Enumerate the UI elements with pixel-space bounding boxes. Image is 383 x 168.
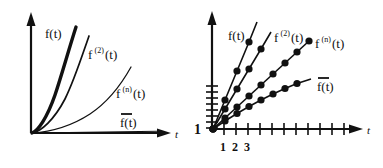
panel-discrete-curves: f(t) f (2) (t) f (n) (t) f(t) 1 1 2: [191, 0, 383, 168]
svg-text:f: f: [315, 36, 320, 51]
svg-text:f: f: [116, 86, 121, 101]
svg-text:f: f: [274, 30, 279, 45]
label-fbar-right: f(t): [317, 78, 334, 94]
discrete-plot-svg: f(t) f (2) (t) f (n) (t) f(t) 1 1 2: [191, 0, 383, 168]
label-f-left: f(t): [45, 26, 62, 41]
x-tick-label-2: 2: [232, 140, 238, 154]
svg-text:f(t): f(t): [317, 79, 334, 94]
svg-text:(2): (2): [95, 46, 105, 55]
svg-text:(t): (t): [133, 86, 145, 101]
y-axis-right: [208, 11, 217, 129]
curve-f2: [32, 36, 89, 133]
svg-text:(n): (n): [322, 35, 332, 44]
panel-continuous-curves: f(t) f (2) (t) f (n) (t) f(t) t: [0, 0, 192, 168]
y-origin-label: 1: [194, 122, 201, 137]
svg-text:(n): (n): [123, 85, 133, 94]
label-f2-left: f (2) (t): [88, 46, 117, 62]
label-fbar-left: f(t): [120, 114, 137, 130]
figure-root: f(t) f (2) (t) f (n) (t) f(t) t: [0, 0, 383, 168]
x-tick-label-1: 1: [220, 140, 226, 154]
label-fn-left: f (n) (t): [116, 85, 145, 101]
svg-text:f: f: [88, 47, 93, 62]
x-axis-label-right: t: [367, 124, 371, 136]
x-axis-label-left: t: [175, 128, 179, 140]
label-f-right: f(t): [228, 28, 245, 43]
label-f2-right: f (2) (t): [274, 29, 303, 45]
x-tick-label-3: 3: [244, 140, 250, 154]
continuous-plot-svg: f(t) f (2) (t) f (n) (t) f(t) t: [0, 0, 192, 168]
svg-text:f(t): f(t): [120, 115, 137, 130]
svg-text:(t): (t): [105, 47, 117, 62]
svg-text:(t): (t): [291, 30, 303, 45]
y-axis-left: [27, 12, 36, 133]
x-axis-right: [212, 125, 363, 134]
label-fn-right: f (n) (t): [315, 35, 344, 51]
svg-text:(2): (2): [281, 29, 291, 38]
svg-text:(t): (t): [332, 36, 344, 51]
